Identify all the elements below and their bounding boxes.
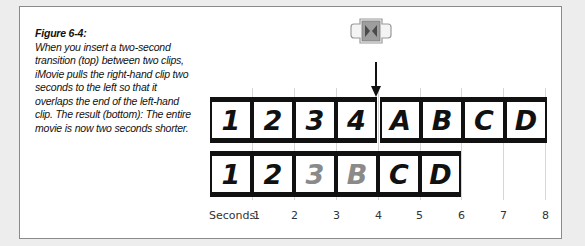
arrow-shaft <box>375 62 377 88</box>
clip: B <box>421 97 463 143</box>
clip: 4 <box>336 97 377 143</box>
clip-overlap: 3 <box>294 151 336 197</box>
clip: A <box>380 97 421 143</box>
tick-label: 8 <box>542 209 549 222</box>
clip: D <box>420 151 461 197</box>
arrow-down-icon <box>371 86 381 97</box>
tick-label: 4 <box>375 209 382 222</box>
tick-label: 1 <box>253 209 260 222</box>
clip: C <box>378 151 420 197</box>
tick-label: 3 <box>333 209 340 222</box>
clip: 3 <box>294 97 336 143</box>
figure-title: Figure 6-4: <box>35 27 195 41</box>
clip: 1 <box>210 97 252 143</box>
clip-overlap: B <box>336 151 378 197</box>
clip: 2 <box>252 151 294 197</box>
tick-label: 5 <box>416 209 423 222</box>
tick-label: 6 <box>458 209 465 222</box>
axis-title: Seconds: <box>209 209 259 222</box>
figure-caption-text: When you insert a two-second transition … <box>35 41 191 134</box>
clip: C <box>463 97 505 143</box>
figure-caption: Figure 6-4: When you insert a two-second… <box>35 27 195 135</box>
transition-icon <box>346 17 396 45</box>
timeline-row-after: 1 2 3 B C D <box>210 151 461 197</box>
tick-label: 7 <box>500 209 507 222</box>
clip: D <box>505 97 547 143</box>
tick-label: 2 <box>291 209 298 222</box>
clip: 1 <box>210 151 252 197</box>
timeline-row-before: 1 2 3 4 A B C D <box>210 97 547 143</box>
clip: 2 <box>252 97 294 143</box>
